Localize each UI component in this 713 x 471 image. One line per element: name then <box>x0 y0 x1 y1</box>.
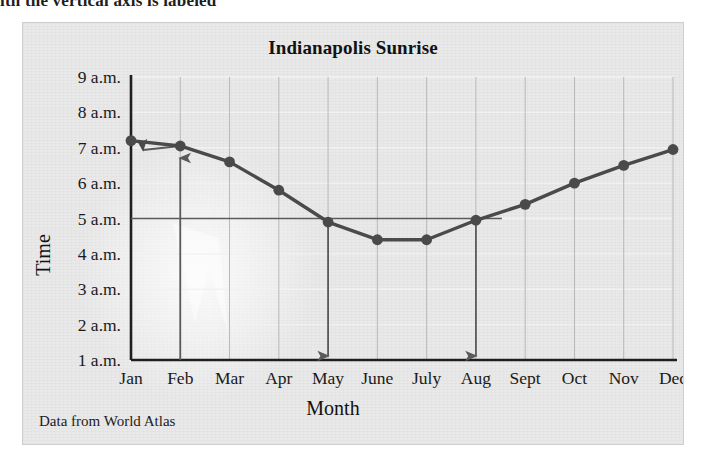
y-axis-title: Time <box>32 234 54 276</box>
y-tick-label: 7 a.m. <box>78 138 121 158</box>
data-point-marker <box>618 160 629 171</box>
data-point-marker <box>569 178 580 189</box>
data-point-marker <box>175 141 186 152</box>
x-tick-label: Oct <box>562 368 587 388</box>
data-point-marker <box>421 234 432 245</box>
y-tick-label: 2 a.m. <box>78 315 121 335</box>
data-point-marker <box>520 199 531 210</box>
x-tick-label: Feb <box>167 368 194 388</box>
y-tick-label: 3 a.m. <box>78 279 121 299</box>
y-tick-label: 1 a.m. <box>78 350 121 370</box>
y-tick-label: 9 a.m. <box>78 67 121 87</box>
y-tick-label: 8 a.m. <box>78 102 121 122</box>
data-point-marker <box>224 157 235 168</box>
x-tick-label: May <box>312 368 344 388</box>
x-tick-label: Mar <box>215 368 244 388</box>
y-tick-label: 6 a.m. <box>78 173 121 193</box>
figure-panel: Indianapolis Sunrise 9 a <box>22 22 684 445</box>
y-tick-label: 4 a.m. <box>78 244 121 264</box>
data-point-marker <box>372 234 383 245</box>
line-chart-plot: 9 a.m.8 a.m.7 a.m.6 a.m.5 a.m.4 a.m.3 a.… <box>23 23 684 445</box>
data-point-marker <box>471 215 482 226</box>
x-tick-label: Sept <box>510 368 541 388</box>
x-tick-label: June <box>361 368 393 388</box>
data-point-marker <box>273 185 284 196</box>
x-axis-title: Month <box>306 397 359 419</box>
x-tick-label: Dec <box>659 368 684 388</box>
data-point-marker <box>126 135 137 146</box>
y-tick-label: 5 a.m. <box>78 209 121 229</box>
y-axis-tick-labels: 9 a.m.8 a.m.7 a.m.6 a.m.5 a.m.4 a.m.3 a.… <box>78 67 121 370</box>
x-tick-label: Nov <box>609 368 639 388</box>
x-tick-label: July <box>412 368 441 388</box>
data-point-marker <box>323 217 334 228</box>
source-note: Data from World Atlas <box>39 413 175 430</box>
x-tick-label: Jan <box>119 368 143 388</box>
x-tick-label: Aug <box>461 368 491 388</box>
clipped-page-text: ith the vertical axis is labeled <box>0 0 340 13</box>
data-point-marker <box>668 144 679 155</box>
x-tick-label: Apr <box>265 368 292 388</box>
